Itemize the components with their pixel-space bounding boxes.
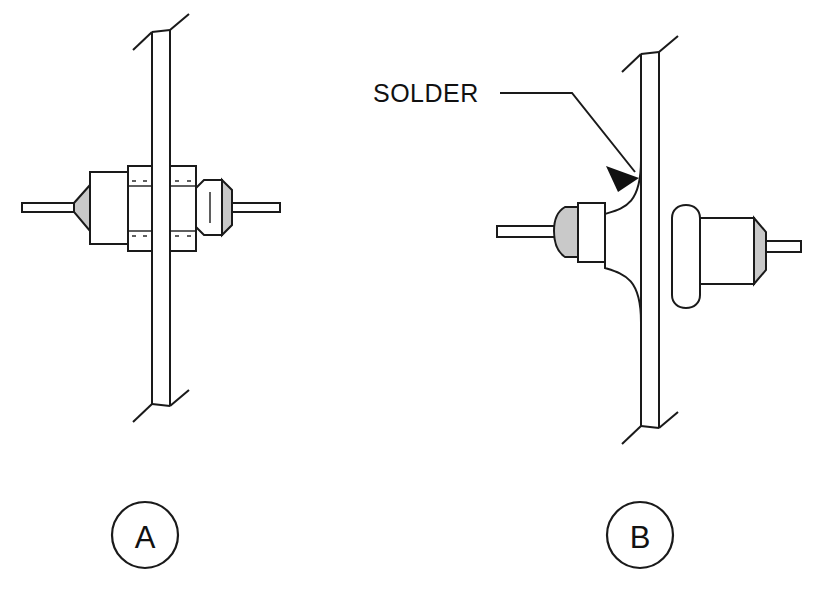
view-b-group <box>497 36 801 444</box>
lead-wire-a-left <box>22 203 74 212</box>
front-hex-nut-a <box>128 166 152 251</box>
view-a-group <box>22 14 280 422</box>
panel-a-break-bottom-left <box>133 404 152 422</box>
callout-b: B <box>607 502 673 568</box>
panel-a-break-top-right <box>170 14 189 30</box>
solder-callout: SOLDER <box>373 79 639 192</box>
insulator-body-b-left <box>578 203 605 262</box>
lead-wire-a-right <box>232 203 280 212</box>
insulator-body-a <box>90 172 128 244</box>
insulator-body-b-right <box>700 218 754 284</box>
callout-a: A <box>112 502 178 568</box>
panel-b-break-bottom-left <box>622 426 641 444</box>
panel-a-bottom-edge <box>152 404 170 406</box>
solder-leader-line <box>500 93 635 172</box>
panel-a-break-bottom-right <box>170 390 189 406</box>
callout-a-letter: A <box>135 520 156 555</box>
callout-b-letter: B <box>630 520 651 555</box>
panel-b-break-top-right <box>659 36 678 52</box>
technical-diagram-canvas: SOLDER A B <box>0 0 823 604</box>
panel-b-break-top-left <box>622 54 641 72</box>
lead-wire-b-right <box>766 241 801 252</box>
rear-bushing-b <box>672 205 700 308</box>
rear-insulator-bead-a <box>196 180 232 235</box>
panel-b-break-bottom-right <box>659 412 678 428</box>
panel-b-bottom-edge <box>641 426 659 428</box>
insulator-bead-b-left-cap <box>554 207 578 257</box>
shoulder-taper-a <box>74 185 90 231</box>
panel-b-top-edge <box>641 52 659 54</box>
panel-a-top-edge <box>152 30 170 32</box>
rear-hex-nut-a <box>170 166 196 251</box>
solder-label: SOLDER <box>373 79 479 107</box>
panel-a-break-top-left <box>133 32 152 50</box>
shoulder-taper-b <box>754 218 766 284</box>
